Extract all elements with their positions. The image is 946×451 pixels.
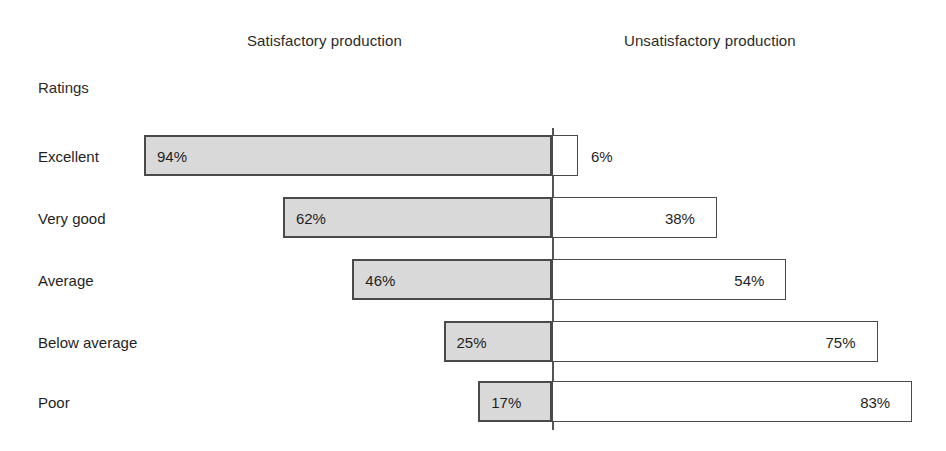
column-header-unsatisfactory: Unsatisfactory production [624,32,796,49]
category-axis-caption: Ratings [38,79,89,96]
bar-unsatisfactory [552,135,578,176]
bar-value-unsatisfactory: 38% [0,211,695,226]
diverging-bar-chart: Satisfactory production Unsatisfactory p… [0,0,946,451]
column-header-satisfactory: Satisfactory production [247,32,402,49]
bar-value-unsatisfactory: 6% [591,149,613,164]
bar-value-unsatisfactory: 54% [0,273,764,288]
bar-value-unsatisfactory: 83% [0,395,890,410]
bar-value-unsatisfactory: 75% [0,335,856,350]
bar-satisfactory [144,135,552,176]
category-label: Excellent [38,149,99,164]
bar-value-satisfactory: 94% [157,149,187,164]
